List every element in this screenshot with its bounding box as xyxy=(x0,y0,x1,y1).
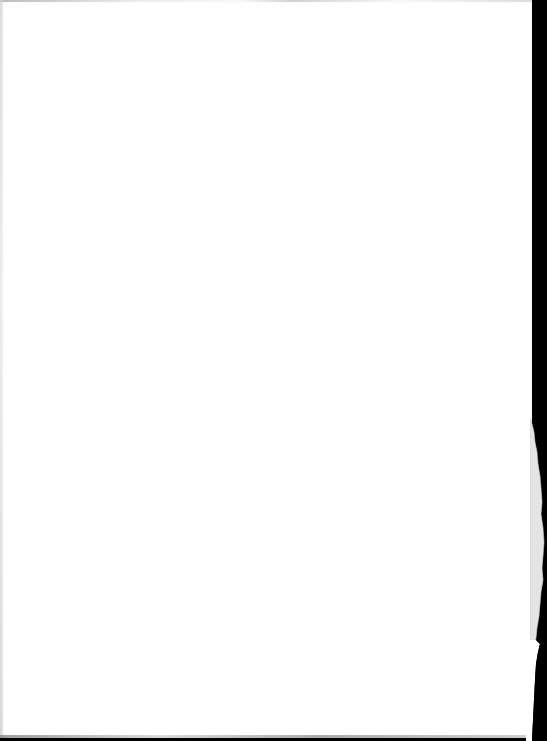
bottom-edge-shadow xyxy=(0,735,532,738)
scanned-document xyxy=(0,0,547,741)
torn-paper-edge xyxy=(530,418,547,648)
blank-paper-sheet xyxy=(0,0,532,738)
page-corner-curl xyxy=(526,640,547,741)
left-edge-shadow xyxy=(0,0,3,738)
top-edge-shadow xyxy=(0,0,532,2)
